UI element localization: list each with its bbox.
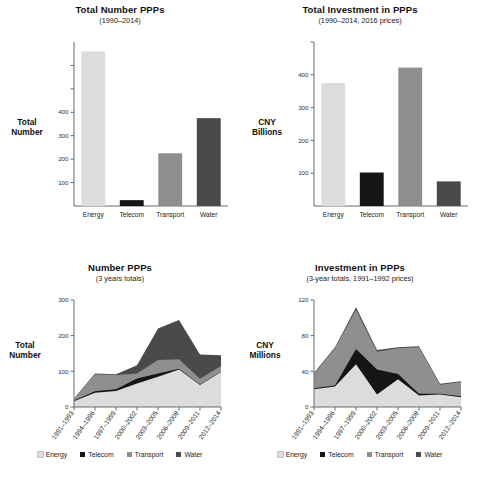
- legend-item-transport: Transport: [367, 451, 404, 458]
- x-axis-tick-label: Transport: [396, 211, 424, 219]
- chart-panel-investment-ppps-3yr: Investment in PPPs (3-year totals, 1991–…: [240, 262, 480, 481]
- x-axis-tick-label: Water: [440, 211, 458, 218]
- legend-swatch-icon: [38, 452, 43, 457]
- chart-title: Number PPPs: [0, 262, 240, 273]
- y-axis-tick-label: 200: [58, 332, 69, 339]
- x-axis-tick-label: Telecom: [359, 211, 384, 218]
- x-axis-tick-label: Energy: [83, 211, 105, 219]
- bar-energy: [321, 83, 345, 206]
- bar-transport: [158, 153, 182, 206]
- legend-swatch-icon: [176, 452, 181, 457]
- y-axis-label-line2: Billions: [244, 127, 290, 137]
- x-axis-tick-label: Energy: [323, 211, 345, 219]
- y-axis-tick-label: 120: [298, 296, 309, 303]
- svg-text:300: 300: [298, 104, 309, 111]
- svg-text:200: 200: [298, 137, 309, 144]
- chart-legend: EnergyTelecomTransportWater: [0, 451, 240, 458]
- y-axis-label: Total Number: [2, 340, 48, 360]
- bar-transport: [398, 68, 422, 206]
- chart-subtitle: (1990–2014): [0, 16, 240, 25]
- y-axis-label-line1: Total: [4, 117, 50, 127]
- chart-canvas-investment-ppps-3yr: 040801201991–19931994–19961997–19992000–…: [290, 294, 465, 469]
- y-axis-label: CNY Millions: [242, 340, 288, 360]
- y-axis-tick-label: 300: [58, 296, 69, 303]
- chart-panel-number-ppps-3yr: Number PPPs (3 years totals) Total Numbe…: [0, 262, 240, 481]
- y-axis-label: CNY Billions: [244, 117, 290, 137]
- x-axis-tick-label: 2012–2014: [437, 409, 462, 440]
- legend-label: Telecom: [88, 451, 113, 458]
- legend-item-transport: Transport: [127, 451, 164, 458]
- y-axis-tick-label: 100: [58, 368, 69, 375]
- x-axis-tick-label: Water: [200, 211, 218, 218]
- legend-item-energy: Energy: [38, 451, 68, 458]
- chart-panel-total-investment-ppps: Total Investment in PPPs (1990–2014, 201…: [240, 4, 480, 240]
- chart-canvas-total-investment-ppps: 100200300400EnergyTelecomTransportWater: [292, 38, 472, 228]
- legend-item-water: Water: [176, 451, 202, 458]
- svg-text:200: 200: [58, 155, 69, 162]
- chart-legend: EnergyTelecomTransportWater: [240, 451, 480, 458]
- legend-label: Transport: [135, 451, 164, 458]
- chart-title: Total Number PPPs: [0, 4, 240, 15]
- legend-swatch-icon: [278, 452, 283, 457]
- y-axis-label-line1: CNY: [244, 117, 290, 127]
- figure-root: Total Number PPPs (1990–2014) Total Numb…: [0, 0, 480, 481]
- legend-swatch-icon: [416, 452, 421, 457]
- bar-energy: [81, 51, 105, 206]
- svg-text:400: 400: [58, 108, 69, 115]
- svg-text:100: 100: [298, 169, 309, 176]
- legend-swatch-icon: [127, 452, 132, 457]
- legend-label: Telecom: [328, 451, 353, 458]
- chart-subtitle: (3-year totals, 1991–1992 prices): [240, 274, 480, 283]
- legend-label: Water: [184, 451, 202, 458]
- legend-swatch-icon: [320, 452, 325, 457]
- y-axis-label-line2: Number: [4, 127, 50, 137]
- bar-water: [437, 181, 461, 206]
- x-axis-tick-label: 2012–2014: [197, 409, 222, 440]
- legend-item-telecom: Telecom: [320, 451, 353, 458]
- y-axis-label-line2: Millions: [242, 350, 288, 360]
- y-axis-tick-label: 80: [302, 332, 309, 339]
- bar-telecom: [120, 200, 144, 206]
- svg-text:300: 300: [58, 132, 69, 139]
- svg-text:400: 400: [298, 71, 309, 78]
- bar-telecom: [360, 173, 384, 206]
- y-axis-label-line1: Total: [2, 340, 48, 350]
- svg-text:100: 100: [58, 179, 69, 186]
- legend-swatch-icon: [367, 452, 372, 457]
- legend-label: Energy: [286, 451, 308, 458]
- x-axis-tick-label: Transport: [156, 211, 184, 219]
- legend-label: Energy: [46, 451, 68, 458]
- chart-canvas-total-number-ppps: 100200300400EnergyTelecomTransportWater: [52, 38, 232, 228]
- chart-title: Total Investment in PPPs: [240, 4, 480, 15]
- x-axis-tick-label: Telecom: [119, 211, 144, 218]
- y-axis-label: Total Number: [4, 117, 50, 137]
- chart-subtitle: (1990–2014, 2016 prices): [240, 16, 480, 25]
- bar-water: [197, 118, 221, 206]
- chart-title: Investment in PPPs: [240, 262, 480, 273]
- y-axis-label-line1: CNY: [242, 340, 288, 350]
- y-axis-tick-label: 40: [302, 368, 309, 375]
- legend-item-energy: Energy: [278, 451, 308, 458]
- chart-panel-total-number-ppps: Total Number PPPs (1990–2014) Total Numb…: [0, 4, 240, 240]
- legend-label: Transport: [375, 451, 404, 458]
- legend-label: Water: [424, 451, 442, 458]
- chart-canvas-number-ppps-3yr: 01002003001991–19931994–19961997–1999200…: [50, 294, 225, 469]
- legend-swatch-icon: [80, 452, 85, 457]
- y-axis-label-line2: Number: [2, 350, 48, 360]
- chart-subtitle: (3 years totals): [0, 274, 240, 283]
- legend-item-water: Water: [416, 451, 442, 458]
- legend-item-telecom: Telecom: [80, 451, 113, 458]
